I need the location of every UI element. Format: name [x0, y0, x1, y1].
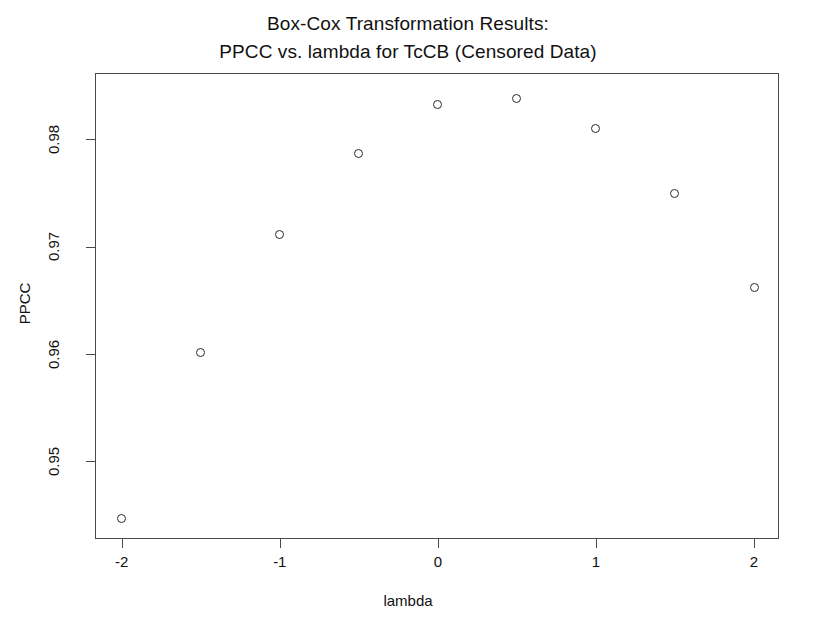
y-axis-tick-label: 0.98: [45, 125, 62, 154]
x-axis-tick-label: 1: [592, 553, 600, 570]
y-axis-tick-label-wrap: 0.96: [30, 346, 78, 364]
x-axis-tick-label: 0: [434, 553, 442, 570]
y-axis-tick-label: 0.95: [45, 447, 62, 476]
y-axis-tick: [86, 247, 95, 248]
y-axis-tick: [86, 354, 95, 355]
y-axis-tick-label-wrap: 0.95: [30, 453, 78, 471]
y-axis-tick: [86, 461, 95, 462]
x-axis-tick-label: 2: [750, 553, 758, 570]
chart-title: Box-Cox Transformation Results: PPCC vs.…: [0, 10, 816, 66]
y-axis-tick: [86, 139, 95, 140]
plot-area: [95, 73, 779, 539]
chart-figure: Box-Cox Transformation Results: PPCC vs.…: [0, 0, 816, 641]
chart-title-line-1: Box-Cox Transformation Results:: [0, 10, 816, 38]
x-axis-tick: [280, 539, 281, 548]
y-axis-tick-label: 0.97: [45, 232, 62, 261]
y-axis-label: PPCC: [16, 274, 33, 334]
y-axis-tick-label-wrap: 0.97: [30, 238, 78, 256]
chart-title-line-2: PPCC vs. lambda for TcCB (Censored Data): [0, 38, 816, 66]
x-axis-tick: [754, 539, 755, 548]
x-axis-label: lambda: [0, 592, 816, 609]
x-axis-tick-label: -1: [273, 553, 286, 570]
x-axis-tick: [596, 539, 597, 548]
x-axis-tick: [122, 539, 123, 548]
y-axis-tick-label-wrap: 0.98: [30, 131, 78, 149]
x-axis-tick-label: -2: [115, 553, 128, 570]
x-axis-tick: [438, 539, 439, 548]
y-axis-tick-label: 0.96: [45, 340, 62, 369]
